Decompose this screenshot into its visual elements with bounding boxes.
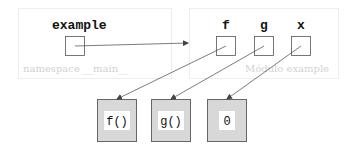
object-zero: 0 <box>208 100 247 142</box>
frame-label-main: namespace __main__ <box>23 63 128 75</box>
frame-label-module: Módulo example <box>245 63 329 74</box>
object-label-f: f() <box>106 115 128 129</box>
var-label-x: x <box>297 18 305 33</box>
diagram-canvas: example namespace __main__ f g x Módulo … <box>0 0 356 151</box>
object-f: f() <box>98 100 137 142</box>
var-label-g: g <box>260 18 268 33</box>
var-label-f: f <box>222 18 230 33</box>
var-label-example: example <box>52 18 107 33</box>
object-label-g: g() <box>160 115 182 129</box>
object-g: g() <box>152 100 191 142</box>
namespace-diagram: example namespace __main__ f g x Módulo … <box>0 0 356 151</box>
frame-main: example namespace __main__ <box>19 9 172 79</box>
object-label-zero: 0 <box>223 115 230 129</box>
frame-module: f g x Módulo example <box>190 9 339 79</box>
